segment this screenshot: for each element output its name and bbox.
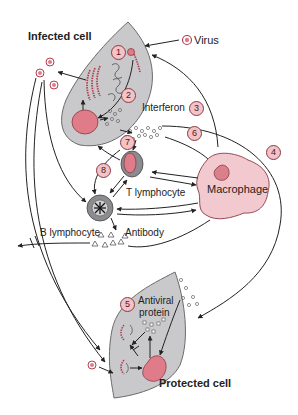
macrophage-label: Macrophage [207, 184, 268, 195]
step-5-badge: 5 [120, 297, 135, 312]
step-8-badge: 8 [96, 163, 111, 178]
antiviral-label-line2: protein [139, 308, 170, 318]
immune-response-diagram [0, 0, 298, 415]
incoming-virus-icon [88, 361, 96, 369]
step-3-badge: 3 [189, 101, 204, 116]
antibody-label: Antibody [125, 228, 164, 238]
step-2-badge: 2 [121, 88, 136, 103]
step-1-badge: 1 [111, 45, 126, 60]
released-virus-icon [36, 58, 58, 89]
antiviral-label-line1: Antiviral [138, 296, 174, 306]
b-lymphocyte-cell [87, 195, 113, 221]
infected-cell-title: Infected cell [28, 31, 92, 42]
t-lymphocyte-cell [121, 151, 143, 177]
step-7-badge: 7 [120, 135, 135, 150]
interferon-label: Interferon [142, 103, 185, 113]
step-4-badge: 4 [266, 145, 281, 160]
b-lymphocyte-label: B lymphocyte [40, 228, 100, 238]
protected-cell-title: Protected cell [159, 378, 231, 389]
virus-label: Virus [194, 35, 219, 46]
infected-nucleus [72, 110, 98, 134]
virus-icon [183, 36, 192, 45]
t-lymphocyte-label: T lymphocyte [126, 188, 185, 198]
step-6-badge: 6 [187, 126, 202, 141]
